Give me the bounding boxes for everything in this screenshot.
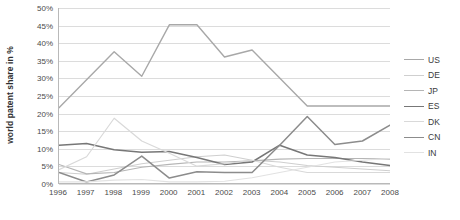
legend-item-de[interactable]: DE <box>404 68 460 84</box>
legend: USDEJPESDKCNIN <box>404 52 460 161</box>
y-axis-tick-label: 10% <box>37 144 53 153</box>
y-axis-tick-label: 15% <box>37 127 53 136</box>
y-axis-tick-label: 20% <box>37 109 53 118</box>
legend-item-dk[interactable]: DK <box>404 114 460 130</box>
y-axis-tick-label: 35% <box>37 56 53 65</box>
y-axis-tick-label: 30% <box>37 74 53 83</box>
legend-label: JP <box>428 87 438 96</box>
legend-label: CN <box>428 133 440 142</box>
legend-item-jp[interactable]: JP <box>404 83 460 99</box>
y-axis-tick-labels: 0%5%10%15%20%25%30%35%40%45%50% <box>20 8 56 184</box>
x-axis-tick-label: 2008 <box>381 188 399 197</box>
x-axis-tick-label: 2003 <box>243 188 261 197</box>
x-axis-tick-label: 2006 <box>326 188 344 197</box>
legend-swatch-es-icon <box>404 106 424 107</box>
y-axis-tick-label: 50% <box>37 4 53 13</box>
legend-swatch-cn-icon <box>404 137 424 138</box>
legend-swatch-in-icon <box>404 152 424 153</box>
x-axis-tick-label: 2007 <box>353 188 371 197</box>
legend-label: DK <box>428 118 440 127</box>
legend-item-in[interactable]: IN <box>404 145 460 161</box>
legend-label: IN <box>428 149 437 158</box>
y-axis-tick-label: 40% <box>37 39 53 48</box>
legend-label: ES <box>428 102 439 111</box>
gridline <box>59 184 390 185</box>
x-axis-tick-label: 1996 <box>49 188 67 197</box>
line-chart: world patent share in % 0%5%10%15%20%25%… <box>0 0 460 220</box>
x-axis-tick-label: 2004 <box>270 188 288 197</box>
x-axis-tick-label: 1999 <box>132 188 150 197</box>
series-line-jp <box>59 159 390 174</box>
y-axis-tick-label: 45% <box>37 21 53 30</box>
legend-item-us[interactable]: US <box>404 52 460 68</box>
x-axis-tick-label: 1998 <box>104 188 122 197</box>
legend-label: US <box>428 56 440 65</box>
x-axis-tick-label: 1997 <box>77 188 95 197</box>
y-axis-tick-label: 25% <box>37 92 53 101</box>
legend-swatch-us-icon <box>404 59 424 60</box>
x-axis-tick-labels: 1996199719981999200020012002200320042005… <box>58 188 390 204</box>
legend-label: DE <box>428 71 440 80</box>
x-axis-tick-label: 2005 <box>298 188 316 197</box>
series-lines <box>59 8 390 183</box>
y-axis-tick-label: 5% <box>41 162 53 171</box>
legend-swatch-dk-icon <box>404 121 424 122</box>
legend-swatch-jp-icon <box>404 90 424 91</box>
x-axis-tick-label: 2000 <box>160 188 178 197</box>
plot-area <box>58 8 390 184</box>
y-axis-title: world patent share in % <box>0 0 20 190</box>
legend-item-es[interactable]: ES <box>404 99 460 115</box>
series-line-us <box>59 25 390 108</box>
y-axis-title-text: world patent share in % <box>5 46 15 144</box>
legend-item-cn[interactable]: CN <box>404 130 460 146</box>
x-axis-tick-label: 2001 <box>187 188 205 197</box>
legend-swatch-de-icon <box>404 75 424 76</box>
x-axis-tick-label: 2002 <box>215 188 233 197</box>
